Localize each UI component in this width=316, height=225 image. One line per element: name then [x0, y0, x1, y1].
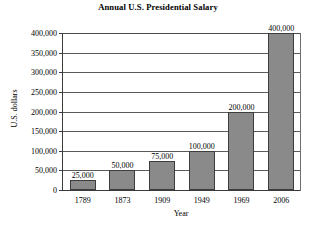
x-axis-title: Year	[62, 209, 300, 218]
bar[interactable]: 200,000	[228, 112, 254, 191]
bar[interactable]: 25,000	[70, 180, 96, 190]
x-axis-tick-label: 2006	[273, 196, 289, 205]
bar-value-label: 25,000	[72, 171, 94, 180]
y-axis-tick-label: 250,000	[31, 87, 57, 96]
y-axis-tick-label: 200,000	[31, 107, 57, 116]
y-axis-tick-label: 300,000	[31, 68, 57, 77]
bar[interactable]: 400,000	[268, 33, 294, 190]
category-slot: 400,0002006	[261, 33, 301, 190]
y-axis-tick-label: 0	[53, 186, 57, 195]
y-axis-tick-label: 100,000	[31, 146, 57, 155]
bar-value-label: 200,000	[228, 103, 254, 112]
plot-frame-right-edge	[300, 33, 301, 191]
category-slot: 75,0001909	[142, 33, 182, 190]
bar[interactable]: 100,000	[189, 151, 215, 190]
chart-title: Annual U.S. Presidential Salary	[0, 2, 316, 13]
bar-value-label: 100,000	[189, 142, 215, 151]
x-axis-tick-label: 1949	[194, 196, 210, 205]
x-axis-tick-label: 1909	[154, 196, 170, 205]
plot-area: 050,000100,000150,000200,000250,000300,0…	[62, 33, 301, 191]
y-axis-tick	[59, 190, 63, 191]
bar[interactable]: 75,000	[149, 161, 175, 190]
y-axis-tick-label: 350,000	[31, 48, 57, 57]
bar-value-label: 50,000	[111, 161, 133, 170]
category-slot: 25,0001789	[63, 33, 103, 190]
bar-chart-figure: Annual U.S. Presidential Salary U.S. dol…	[0, 0, 316, 225]
category-slot: 50,0001873	[103, 33, 143, 190]
y-axis-tick-label: 50,000	[35, 166, 57, 175]
y-axis-title: U.S. dollars	[10, 64, 19, 154]
x-axis-tick-label: 1789	[75, 196, 91, 205]
category-slot: 200,0001969	[222, 33, 262, 190]
bar-value-label: 400,000	[268, 24, 294, 33]
bar[interactable]: 50,000	[109, 170, 135, 190]
y-axis-tick-label: 150,000	[31, 127, 57, 136]
x-axis-tick-label: 1873	[114, 196, 130, 205]
category-slot: 100,0001949	[182, 33, 222, 190]
y-axis-tick-label: 400,000	[31, 29, 57, 38]
bar-value-label: 75,000	[151, 152, 173, 161]
x-axis-tick-label: 1969	[233, 196, 249, 205]
